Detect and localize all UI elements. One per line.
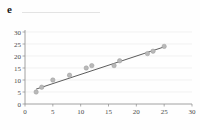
data-points — [34, 44, 166, 94]
figure-panel: e 051015202530 051015202530 — [0, 0, 200, 130]
svg-text:15: 15 — [14, 65, 22, 73]
svg-text:25: 25 — [161, 108, 169, 116]
axis-lines — [25, 30, 192, 104]
svg-text:10: 10 — [14, 77, 22, 85]
svg-text:20: 20 — [133, 108, 141, 116]
svg-text:25: 25 — [14, 41, 22, 49]
svg-text:5: 5 — [51, 108, 55, 116]
svg-text:15: 15 — [105, 108, 113, 116]
x-tick-labels: 051015202530 — [23, 108, 196, 116]
svg-text:30: 30 — [14, 29, 22, 37]
scatter-plot: 051015202530 051015202530 — [0, 18, 200, 130]
svg-text:0: 0 — [18, 101, 22, 109]
y-tick-labels: 051015202530 — [14, 29, 22, 109]
svg-text:10: 10 — [77, 108, 85, 116]
svg-text:5: 5 — [18, 89, 22, 97]
grid-lines — [25, 32, 192, 92]
panel-letter-label: e — [7, 3, 12, 15]
svg-text:20: 20 — [14, 53, 22, 61]
title-rule — [22, 12, 100, 13]
svg-text:0: 0 — [23, 108, 27, 116]
svg-text:30: 30 — [189, 108, 197, 116]
